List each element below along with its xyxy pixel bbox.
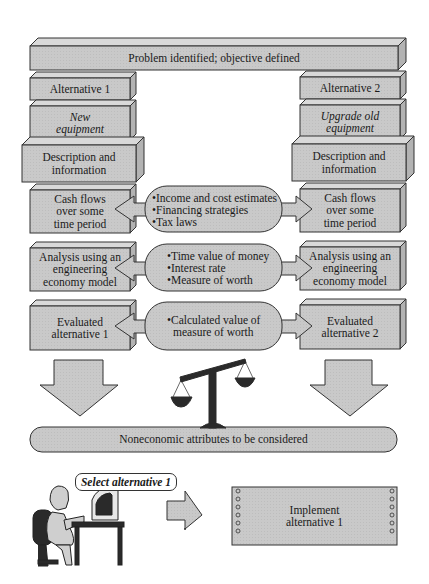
bullet-item: Calculated value of — [167, 314, 260, 326]
right-cash-flows-label: Cash flows over some time period — [300, 189, 400, 232]
oval-evaluated-bullets: Calculated value of measure of worth — [167, 314, 260, 338]
right-option-label: Upgrade old equipment — [300, 105, 400, 139]
oval-analysis-bullets: Time value of money Interest rate Measur… — [167, 250, 269, 286]
left-evaluated-label: Evaluated alternative 1 — [30, 306, 130, 350]
left-description-label: Description and information — [22, 145, 136, 182]
right-analysis-label: Analysis using an engineering economy mo… — [296, 247, 404, 290]
balance-scale-icon — [171, 359, 255, 428]
bullet-item: Financing strategies — [152, 204, 277, 216]
down-arrow-icon — [310, 360, 388, 416]
left-alternative-label: Alternative 1 — [30, 78, 130, 100]
speech-bubble: Select alternative 1 — [75, 473, 177, 491]
bullet-item: Measure of worth — [167, 274, 269, 286]
left-analysis-label: Analysis using an engineering economy mo… — [26, 248, 134, 291]
noneconomic-label: Noneconomic attributes to be considered — [30, 427, 397, 452]
left-option-label: New equipment — [30, 106, 130, 140]
bullet-item: Interest rate — [167, 262, 269, 274]
bullet-continuation: measure of worth — [167, 326, 260, 338]
right-description-label: Description and information — [292, 144, 406, 181]
right-alternative-label: Alternative 2 — [300, 77, 400, 99]
bullet-item: Time value of money — [167, 250, 269, 262]
left-cash-flows-label: Cash flows over some time period — [30, 190, 130, 233]
down-arrow-icon — [40, 360, 118, 416]
right-arrow-icon — [167, 491, 202, 530]
oval-cash-flows-bullets: Income and cost estimates Financing stra… — [152, 192, 277, 228]
bullet-item: Income and cost estimates — [152, 192, 277, 204]
implement-label: Implement alternative 1 — [232, 487, 397, 545]
bullet-item: Tax laws — [152, 216, 277, 228]
objective-label: Problem identified; objective defined — [30, 46, 398, 70]
person-at-computer-icon — [33, 486, 124, 566]
right-evaluated-label: Evaluated alternative 2 — [300, 305, 400, 349]
